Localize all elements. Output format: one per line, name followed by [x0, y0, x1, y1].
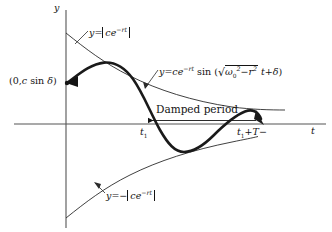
init-close-paren: ) — [53, 75, 57, 86]
upper-env-ce: ce — [105, 27, 116, 38]
t1-tick-label: t1 — [140, 127, 148, 140]
curve-end-arrowhead — [254, 110, 264, 125]
init-sin: sin — [30, 75, 44, 86]
t1-plus-T-tick-label: t1+T− — [237, 127, 267, 140]
t1-sub: 1 — [144, 133, 148, 139]
initial-point-label: (0,c sin δ) — [9, 76, 57, 86]
radicand: ω02−r2 — [225, 65, 258, 80]
eq-plus: + — [265, 66, 273, 77]
lower-env-abs: ce−rt — [127, 190, 155, 201]
eq-omega: ω — [225, 66, 233, 77]
radical-sign: √ — [218, 67, 225, 78]
t-axis-label: t — [311, 126, 315, 136]
upper-env-exponent: −rt — [116, 26, 127, 33]
init-c: c — [22, 75, 27, 86]
upper-env-abs: ce−rt — [102, 27, 130, 38]
eq-sin: sin — [197, 66, 211, 77]
y-axis-label: y — [54, 3, 59, 13]
damped-oscillation-figure: y t y=ce−rt y=−ce−rt y=ce−rt sin (√ω02−r… — [0, 0, 332, 232]
lower-env-minus: − — [119, 190, 127, 201]
eq-r-power: 2 — [253, 65, 257, 72]
t1T-plus: + — [245, 126, 253, 137]
lower-env-ce: ce — [130, 190, 141, 201]
eq-close-paren: ) — [278, 66, 282, 77]
upper-envelope-leader-line — [75, 31, 88, 44]
upper-envelope-label: y=ce−rt — [89, 27, 130, 38]
lower-envelope-label: y=−ce−rt — [106, 190, 155, 201]
plot-canvas — [0, 0, 332, 232]
main-curve-equation-label: y=ce−rt sin (√ω02−r2 t+δ) — [159, 65, 282, 80]
t1T-dash: − — [259, 126, 267, 137]
damped-period-label: Damped period — [156, 104, 238, 115]
eq-omega-sub: 0 — [233, 73, 237, 79]
eq-ce: ce — [172, 66, 183, 77]
lower-envelope-curve — [66, 137, 258, 219]
eq-exponent: −rt — [183, 65, 194, 72]
lower-env-exponent: −rt — [141, 189, 152, 196]
upper-env-equals: = — [94, 27, 102, 38]
